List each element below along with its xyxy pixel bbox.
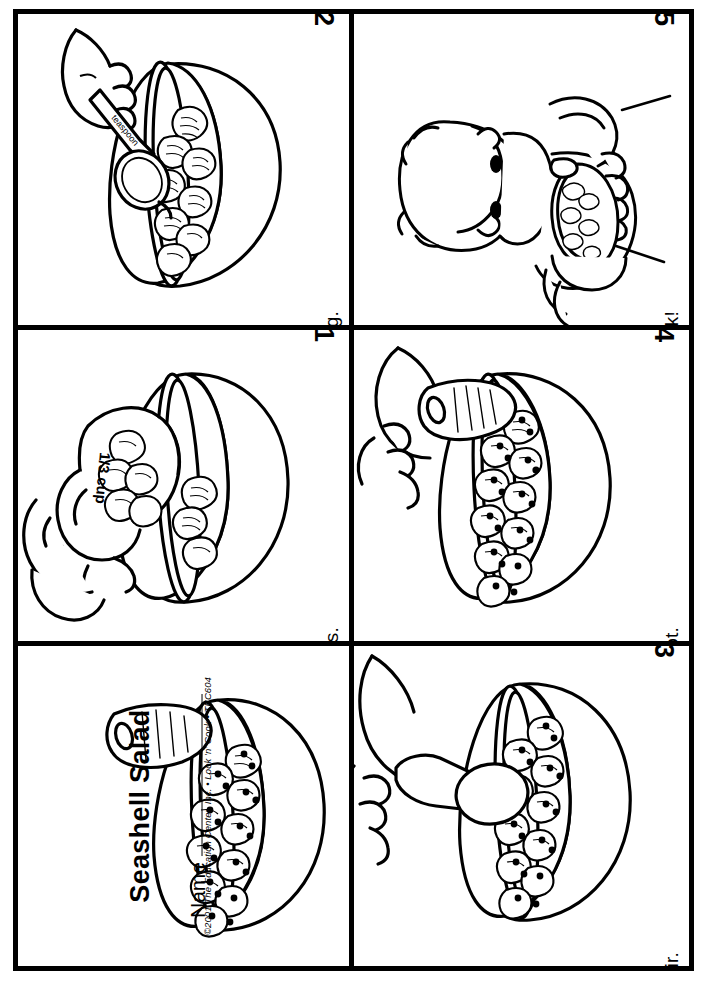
step-number: 3 [648, 646, 679, 658]
worksheet-page: teaspoon 2 Add 1 teaspoon of dressing. [13, 9, 694, 971]
panel-step-4: 4 Add a carrot. [354, 330, 689, 646]
step-caption: Add 1 teaspoon of dressing. [321, 311, 343, 330]
measuring-cup-label: 1/3 cup [93, 452, 114, 505]
step-caption: Stir. [661, 952, 683, 966]
step-number: 1 [308, 330, 339, 342]
step-caption: Seashells for snack! [661, 311, 683, 330]
panel-step-2: teaspoon 2 Add 1 teaspoon of dressing. [18, 14, 354, 330]
step-caption: Measure the shells. [321, 627, 343, 646]
panel-step-1: 1/3 cup 1 Measure the shells. [18, 330, 354, 646]
panel-step-3: 3 Stir. [354, 646, 689, 966]
panel-title: Seashell Salad Name ©2001 The Education … [18, 646, 354, 966]
step-number: 5 [648, 14, 679, 26]
illustration-hand-pouring-measuring-cup-into-bowl: 1/3 cup [18, 330, 349, 641]
copyright-notice: ©2001 The Education Center, Inc. • Look … [203, 677, 214, 935]
step-number: 4 [648, 330, 679, 342]
panel-grid: teaspoon 2 Add 1 teaspoon of dressing. [18, 14, 689, 966]
page-title: Seashell Salad [125, 709, 156, 902]
illustration-child-eating-bowl-of-seashell-salad [354, 14, 689, 325]
step-caption: Add a carrot. [661, 627, 683, 646]
illustration-hand-stirring-bowl-with-spoon [354, 646, 689, 966]
illustration-bowl-with-shells-and-carrot [18, 646, 349, 966]
panel-step-5: 5 Seashells for snack! [354, 14, 689, 330]
illustration-hand-adding-carrot-to-bowl [354, 330, 689, 641]
illustration-hand-holding-teaspoon-over-bowl: teaspoon [18, 14, 349, 325]
step-number: 2 [308, 14, 339, 26]
teaspoon-label: teaspoon [109, 113, 140, 148]
